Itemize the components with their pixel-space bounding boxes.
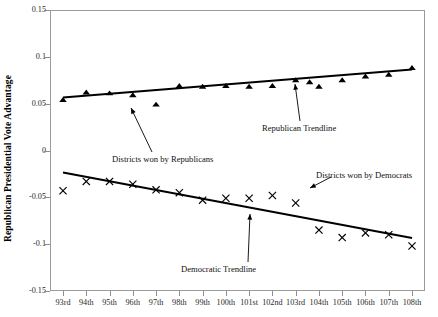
- x-tick-mark: [63, 291, 64, 296]
- x-tick-mark: [342, 291, 343, 296]
- annotation-republican-trendline: Republican Trendline: [262, 124, 336, 133]
- annotation-democratic-trendline: Democratic Trendline: [181, 265, 256, 274]
- x-tick-mark: [389, 291, 390, 296]
- y-tick-label: -0.05: [8, 193, 46, 201]
- x-tick-mark: [226, 291, 227, 296]
- annotation-districts-won-by-democrats: Districts won by Democrats: [316, 171, 412, 180]
- y-tick-mark: [44, 197, 50, 198]
- top-cropped-strip: [50, 0, 425, 9]
- y-tick-label: 0: [8, 147, 46, 155]
- x-tick-mark: [412, 291, 413, 296]
- y-tick-label: -0.1: [8, 240, 46, 248]
- x-tick-mark: [133, 291, 134, 296]
- x-tick-mark: [110, 291, 111, 296]
- y-tick-mark: [44, 291, 50, 292]
- x-tick-label: 108th: [392, 299, 432, 307]
- y-tick-mark: [44, 151, 50, 152]
- x-tick-mark: [179, 291, 180, 296]
- chart-page: Republican Presidential Vote Advantage 0…: [0, 0, 438, 317]
- y-tick-mark: [44, 57, 50, 58]
- x-tick-mark: [365, 291, 366, 296]
- plot-area: [50, 10, 425, 291]
- y-tick-mark: [44, 104, 50, 105]
- y-tick-label: -0.15: [8, 287, 46, 295]
- x-tick-mark: [156, 291, 157, 296]
- x-tick-mark: [272, 291, 273, 296]
- x-tick-mark: [203, 291, 204, 296]
- y-tick-label: 0.05: [8, 100, 46, 108]
- x-tick-mark: [86, 291, 87, 296]
- y-axis-title: Republican Presidential Vote Advantage: [0, 0, 16, 317]
- x-tick-mark: [319, 291, 320, 296]
- y-tick-label: 0.15: [8, 6, 46, 14]
- x-tick-mark: [296, 291, 297, 296]
- y-tick-label: 0.1: [8, 53, 46, 61]
- x-tick-mark: [249, 291, 250, 296]
- y-tick-mark: [44, 10, 50, 11]
- annotation-districts-won-by-republicans: Districts won by Republicans: [112, 155, 213, 164]
- y-tick-mark: [44, 244, 50, 245]
